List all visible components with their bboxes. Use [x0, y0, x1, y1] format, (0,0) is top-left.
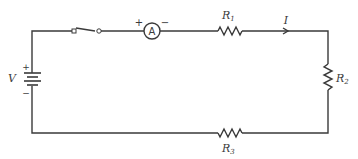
switch-right-terminal: [97, 29, 101, 33]
switch-blade: [76, 28, 95, 31]
battery: + − V: [8, 62, 41, 98]
battery-plus: +: [22, 62, 30, 72]
switch-left-terminal: [72, 29, 76, 33]
resistor-r2: R2: [324, 64, 349, 90]
resistor-r3-label: R3: [221, 142, 235, 156]
resistor-r1-zigzag: [218, 27, 242, 35]
resistor-r3: R3: [218, 129, 242, 156]
wire-left-top: [32, 31, 72, 73]
ammeter-minus: −: [161, 17, 169, 28]
circuit-diagram: A + − R1 I R2 R3 + − V: [0, 0, 358, 159]
switch: [72, 28, 101, 33]
resistor-r2-zigzag: [324, 64, 332, 90]
current-label: I: [283, 14, 289, 27]
ammeter-plus: +: [135, 17, 143, 28]
battery-label: V: [8, 72, 17, 85]
wire-bottom-left: [32, 86, 218, 133]
ammeter-symbol: A: [149, 26, 156, 37]
resistor-r3-zigzag: [218, 129, 242, 137]
wire-right-bottom: [242, 90, 328, 133]
resistor-r1-label: R1: [221, 9, 235, 23]
wire-r1-right: [242, 31, 328, 64]
ammeter: A + −: [135, 17, 169, 39]
resistor-r1: R1: [218, 9, 242, 35]
battery-minus: −: [22, 88, 30, 98]
resistor-r2-label: R2: [335, 72, 349, 86]
